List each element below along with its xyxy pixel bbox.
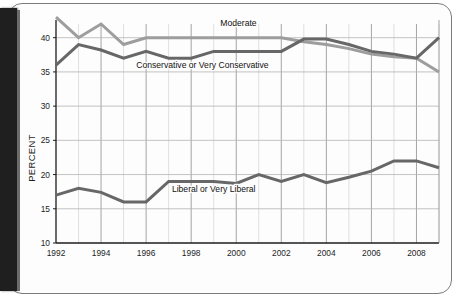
y-tick-label: 30 (41, 101, 51, 111)
book-binding-edge (17, 10, 20, 291)
chart-canvas: 10152025303540 1992199419961998200020022… (22, 8, 452, 292)
line-chart: 10152025303540 1992199419961998200020022… (22, 8, 452, 292)
book-binding-spine (0, 8, 17, 291)
series-inline-label: Moderate (220, 18, 257, 28)
x-tick-label: 2002 (272, 248, 291, 258)
y-tick-label: 40 (41, 33, 51, 43)
x-tick-label: 2000 (227, 248, 246, 258)
series-line (56, 161, 439, 202)
y-axis-tick-labels: 10152025303540 (41, 33, 56, 248)
y-tick-label: 25 (41, 135, 51, 145)
y-axis-title-text: PERCENT (26, 134, 37, 182)
series-inline-label: Conservative or Very Conservative (136, 60, 269, 70)
y-tick-label: 10 (41, 238, 51, 248)
x-tick-label: 2004 (317, 248, 336, 258)
y-tick-label: 20 (41, 170, 51, 180)
x-axis-tick-labels: 199219941996199820002002200420062008 (47, 248, 426, 258)
x-tick-label: 1994 (92, 248, 111, 258)
y-axis-title: PERCENT (26, 134, 37, 182)
x-tick-label: 2008 (407, 248, 426, 258)
x-tick-label: 1996 (137, 248, 156, 258)
y-tick-label: 35 (41, 67, 51, 77)
x-tick-label: 1992 (47, 248, 66, 258)
series-inline-label: Liberal or Very Liberal (172, 184, 256, 194)
y-tick-label: 15 (41, 204, 51, 214)
x-tick-label: 1998 (182, 248, 201, 258)
x-tick-label: 2006 (362, 248, 381, 258)
